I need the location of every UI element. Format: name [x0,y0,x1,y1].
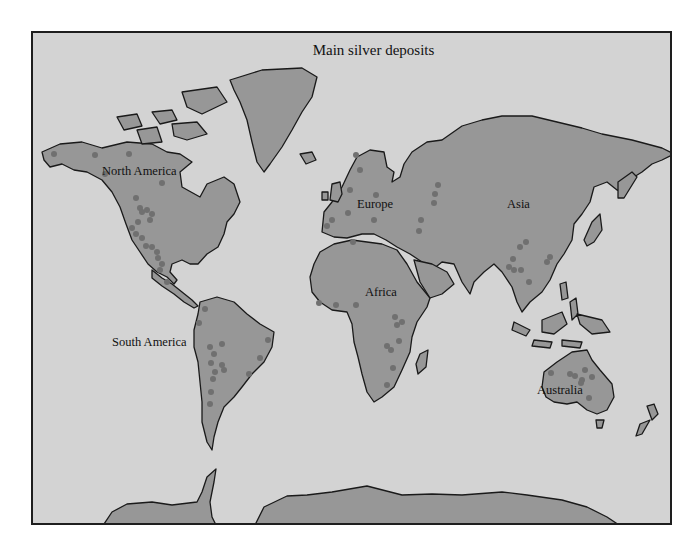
map-frame: Main silver deposits North America Europ… [31,31,672,525]
label-africa: Africa [365,285,397,300]
label-europe: Europe [357,197,393,212]
label-australia: Australia [537,383,583,398]
tasmania-landmass [596,420,604,428]
map-title: Main silver deposits [55,42,672,59]
antarctica-landmass [102,469,622,525]
iceland-landmass [300,152,316,164]
australia-landmass [542,350,614,414]
south-america-landmass [194,297,274,450]
world-map [33,33,672,525]
madagascar-landmass [416,350,428,374]
africa-landmass [310,240,430,402]
arctic-islands [117,87,227,144]
philippines-islands [560,282,568,300]
label-south-america: South America [112,335,187,350]
central-america-landmass [152,270,198,308]
label-north-america: North America [102,164,177,179]
new-zealand-landmass [636,404,658,436]
japan-landmass [584,214,602,246]
label-asia: Asia [507,197,530,212]
british-isles-landmass [322,182,342,202]
